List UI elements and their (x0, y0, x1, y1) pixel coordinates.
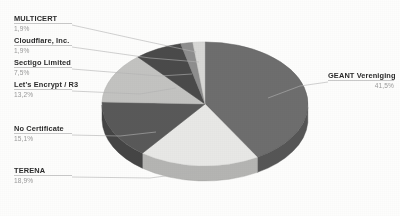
callout-label-multicert: MULTICERT 1,9% (14, 14, 72, 33)
label-name-multicert: MULTICERT (14, 14, 72, 23)
callout-label-geant: GEANT Vereniging 41,5% (328, 71, 394, 90)
pie-chart-figure: MULTICERT 1,9% Cloudflare, Inc. 1,9% Sec… (0, 0, 400, 216)
label-value-letsencrypt: 13,2% (14, 91, 72, 100)
label-name-cloudflare: Cloudflare, Inc. (14, 36, 72, 45)
label-value-no-certificate: 15,1% (14, 135, 72, 144)
pie-slices (102, 42, 308, 166)
callout-label-letsencrypt: Let's Encrypt / R3 13,2% (14, 80, 72, 99)
label-value-cloudflare: 1,9% (14, 47, 72, 56)
label-name-geant: GEANT Vereniging (328, 71, 394, 80)
callout-label-terena: TERENA 18,9% (14, 166, 72, 185)
leader-line-multicert (72, 25, 196, 52)
label-value-geant: 41,5% (328, 82, 394, 91)
label-value-sectigo: 7,5% (14, 69, 72, 78)
label-value-terena: 18,9% (14, 177, 72, 186)
label-name-letsencrypt: Let's Encrypt / R3 (14, 80, 72, 89)
label-name-sectigo: Sectigo Limited (14, 58, 72, 67)
callout-label-cloudflare: Cloudflare, Inc. 1,9% (14, 36, 72, 55)
label-name-no-certificate: No Certificate (14, 124, 72, 133)
callout-label-no-certificate: No Certificate 15,1% (14, 124, 72, 143)
label-name-terena: TERENA (14, 166, 72, 175)
callout-label-sectigo: Sectigo Limited 7,5% (14, 58, 72, 77)
label-value-multicert: 1,9% (14, 25, 72, 34)
